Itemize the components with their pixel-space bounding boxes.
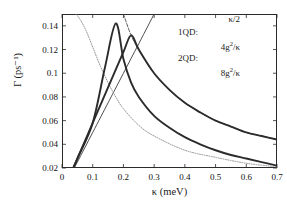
y-tick-label: 0.14 xyxy=(16,21,58,31)
legend: κ/2 1QD: 4g2/κ 2QD: 8g2/κ xyxy=(178,14,282,66)
x-axis-label: κ (meV) xyxy=(62,186,277,197)
legend-group-label-2qd: 2QD: xyxy=(178,53,198,63)
x-tick-label: 0.5 xyxy=(201,172,231,182)
legend-row-2qd-group: 2QD: xyxy=(178,53,282,64)
x-tick-label: 0.7 xyxy=(262,172,287,182)
x-tick-label: 0.4 xyxy=(170,172,200,182)
legend-row-4g2-kappa: 4g2/κ xyxy=(178,40,282,51)
x-tick-label: 0.3 xyxy=(139,172,169,182)
legend-label-kappa-half: κ/2 xyxy=(228,14,240,24)
figure: Γ (ps⁻¹) κ (meV) κ/2 1QD: 4g2/κ 2QD: xyxy=(0,0,287,207)
x-tick-label: 0.6 xyxy=(231,172,261,182)
y-tick-label: 0.04 xyxy=(16,139,58,149)
y-tick-label: 0.08 xyxy=(16,92,58,102)
x-axis-label-text: κ (meV) xyxy=(152,186,187,197)
legend-group-label-1qd: 1QD: xyxy=(178,27,198,37)
y-tick-label: 0.02 xyxy=(16,163,58,173)
legend-row-1qd-group: 1QD: xyxy=(178,27,282,38)
y-tick-label: 0.06 xyxy=(16,116,58,126)
x-tick-label: 0.2 xyxy=(108,172,138,182)
y-tick-label: 0.1 xyxy=(16,68,58,78)
legend-row-8g2-kappa: 8g2/κ xyxy=(178,66,282,77)
legend-label-8g2-kappa: 8g2/κ xyxy=(221,66,240,78)
legend-row-kappa-half: κ/2 xyxy=(178,14,282,25)
x-tick-label: 0 xyxy=(47,172,77,182)
y-tick-label: 0.12 xyxy=(16,45,58,55)
x-tick-label: 0.1 xyxy=(78,172,108,182)
legend-label-4g2-kappa: 4g2/κ xyxy=(221,40,240,52)
